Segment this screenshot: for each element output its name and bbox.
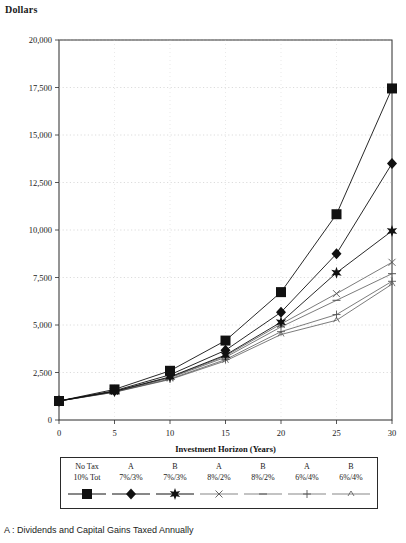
marker-plus <box>388 277 396 285</box>
legend-label-bottom: 6%/4% <box>295 472 319 483</box>
x-tick-label: 20 <box>277 428 286 438</box>
marker-plus <box>333 311 341 319</box>
y-tick-label: 0 <box>48 415 52 425</box>
legend-label-top: B <box>172 461 177 472</box>
chart-legend: No Tax10% TotA7%/3%B7%/3%A8%/2%B8%/2%A6%… <box>60 457 378 509</box>
legend-label-top: A <box>128 461 134 472</box>
legend-column-0: No Tax10% Tot <box>65 461 109 506</box>
marker-diamond <box>387 158 397 169</box>
legend-column-6: B6%/4% <box>329 461 373 506</box>
x-tick-label: 30 <box>388 428 397 438</box>
y-tick-label: 20,000 <box>29 35 52 45</box>
legend-column-2: B7%/3% <box>153 461 197 506</box>
legend-label-top: A <box>216 461 222 472</box>
y-tick-label: 15,000 <box>29 130 52 140</box>
y-tick-label: 5,000 <box>33 320 52 330</box>
figure-caption: A : Dividends and Capital Gains Taxed An… <box>4 525 193 535</box>
legend-column-1: A7%/3% <box>109 461 153 506</box>
y-tick-label: 7,500 <box>33 273 52 283</box>
marker-star <box>387 225 397 237</box>
legend-label-top: B <box>260 461 265 472</box>
legend-label-top: A <box>304 461 310 472</box>
chart-figure: Dollars 02,5005,0007,50010,00012,50015,0… <box>0 0 406 543</box>
legend-label-bottom: 8%/2% <box>251 472 275 483</box>
y-tick-label: 17,500 <box>29 83 52 93</box>
marker-square <box>54 396 64 406</box>
x-tick-label: 10 <box>166 428 175 438</box>
x-tick-label: 25 <box>332 428 341 438</box>
marker-square <box>82 489 92 499</box>
marker-square <box>332 209 342 219</box>
legend-label-bottom: 8%/2% <box>207 472 231 483</box>
legend-column-4: B8%/2% <box>241 461 285 506</box>
legend-symbol-plus <box>287 486 327 498</box>
legend-label-top: B <box>348 461 353 472</box>
legend-label-bottom: 7%/3% <box>163 472 187 483</box>
marker-plus <box>277 328 285 336</box>
x-axis-title: Investment Horizon (Years) <box>175 444 276 454</box>
x-tick-label: 0 <box>57 428 61 438</box>
legend-symbol-dash <box>243 486 283 498</box>
marker-tick <box>348 491 354 496</box>
y-tick-label: 12,500 <box>29 178 52 188</box>
marker-square <box>221 336 231 346</box>
legend-label-top: No Tax <box>75 461 99 472</box>
line-chart-plot: 02,5005,0007,50010,00012,50015,00017,500… <box>0 0 406 460</box>
legend-column-3: A8%/2% <box>197 461 241 506</box>
series-1 <box>54 158 397 407</box>
legend-label-bottom: 10% Tot <box>73 472 100 483</box>
marker-square <box>276 287 286 297</box>
x-tick-label: 5 <box>112 428 116 438</box>
legend-column-5: A6%/4% <box>285 461 329 506</box>
y-tick-label: 10,000 <box>29 225 52 235</box>
series-line <box>59 164 392 402</box>
marker-plus <box>303 490 311 498</box>
legend-label-bottom: 7%/3% <box>119 472 143 483</box>
legend-symbol-cross <box>199 486 239 498</box>
marker-star <box>331 267 341 279</box>
legend-symbol-diamond <box>111 486 151 498</box>
legend-symbol-tick <box>331 486 371 498</box>
legend-label-bottom: 6%/4% <box>339 472 363 483</box>
y-tick-label: 2,500 <box>33 368 52 378</box>
marker-square <box>165 366 175 376</box>
legend-symbol-star <box>155 486 195 498</box>
legend-symbol-square <box>67 486 107 498</box>
marker-square <box>387 83 397 93</box>
marker-diamond <box>126 489 136 500</box>
marker-square <box>110 384 120 394</box>
x-tick-label: 15 <box>221 428 230 438</box>
